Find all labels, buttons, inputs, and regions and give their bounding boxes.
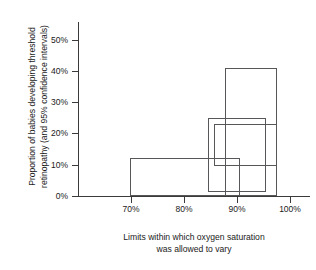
y-tick-label-0: 0%	[56, 192, 68, 201]
y-axis-title: Proportion of babies developing threshol…	[27, 7, 50, 207]
y-tick-label-30: 30%	[51, 98, 68, 107]
x-tick-label-80: 80%	[164, 205, 204, 214]
x-tick-label-70: 70%	[111, 205, 151, 214]
x-tick-mark-80	[184, 197, 185, 203]
x-tick-label-100: 100%	[270, 205, 310, 214]
y-tick-mark-20	[72, 133, 78, 134]
y-tick-mark-30	[72, 102, 78, 103]
x-axis-title: Limits within which oxygen saturation wa…	[78, 232, 310, 255]
x-tick-mark-90	[237, 197, 238, 203]
y-axis-title-line-2: retinopathy (and 95% confidence interval…	[38, 7, 50, 207]
y-tick-label-20: 20%	[51, 129, 68, 138]
retinopathy-oxygen-saturation-chart: Proportion of babies developing threshol…	[0, 0, 316, 270]
y-tick-mark-10	[72, 165, 78, 166]
ci-box-study-4	[225, 68, 277, 196]
y-tick-mark-40	[72, 71, 78, 72]
y-tick-mark-0	[72, 196, 78, 197]
y-tick-label-40: 40%	[51, 67, 68, 76]
x-axis-line	[78, 196, 310, 197]
x-tick-mark-70	[131, 197, 132, 203]
y-axis-line	[78, 22, 79, 197]
y-tick-mark-50	[72, 40, 78, 41]
y-tick-label-10: 10%	[51, 161, 68, 170]
y-tick-label-50: 50%	[51, 36, 68, 45]
left-edge-artifact	[0, 18, 4, 188]
x-tick-mark-100	[290, 197, 291, 203]
x-axis-title-line-2: was allowed to vary	[157, 244, 232, 254]
y-axis-title-line-1: Proportion of babies developing threshol…	[27, 7, 39, 207]
x-axis-title-line-1: Limits within which oxygen saturation	[123, 232, 264, 242]
x-tick-label-90: 90%	[217, 205, 257, 214]
